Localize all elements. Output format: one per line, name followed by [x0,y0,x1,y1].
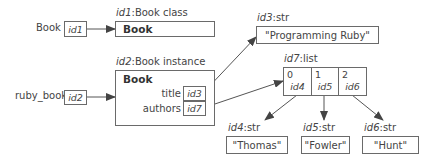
list-cell-0: 0 id4 [284,68,312,95]
field-name-authors: authors [143,103,181,114]
field-ref-title: id3 [183,86,206,101]
class-object-header: Book [123,23,152,35]
string-label-id5: id5:str [303,122,335,133]
list-cell-1: 1 id5 [312,68,339,95]
arrow-cell2-to-hunt [352,95,383,120]
arrow-cell0-to-thomas [265,95,297,120]
instance-object-label: id2:Book instance [116,56,205,67]
string-label-id4: id4:str [228,122,260,133]
list-index-2: 2 [342,69,348,80]
authors-list-box: 0 id4 1 id5 2 id6 [283,67,367,96]
field-ref-authors: id7 [183,101,206,116]
string-box-thomas: "Thomas" [226,136,288,154]
list-ref-0: id4 [284,81,311,92]
authors-list-label: id7:list [284,53,318,64]
variable-name-ruby-book: ruby_book [15,90,67,101]
string-label-id6: id6:str [364,122,396,133]
list-index-0: 0 [287,69,293,80]
title-string-label: id3:str [257,12,289,23]
string-box-fowler: "Fowler" [301,136,350,154]
class-object-box: Book [115,21,215,37]
arrow-authors-to-list [203,81,283,108]
list-ref-2: id6 [339,81,366,92]
instance-object-header: Book [123,73,152,85]
list-cell-2: 2 id6 [339,68,366,95]
class-object-label: id1:Book class [116,7,188,18]
variable-ref-ruby-book: id2 [64,90,87,105]
list-index-1: 1 [315,69,321,80]
variable-ref-book: id1 [64,21,87,37]
instance-object-box: Book title id3 authors id7 [115,70,215,126]
title-string-box: "Programming Ruby" [256,26,379,44]
field-name-title: title [161,88,181,99]
string-box-hunt: "Hunt" [362,136,419,154]
variable-name-book: Book [36,22,61,33]
list-ref-1: id5 [312,81,338,92]
